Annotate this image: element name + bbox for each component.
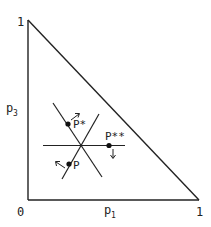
simplex-triangle: [28, 20, 199, 200]
y-max-label: 1: [17, 15, 24, 29]
simplex-diagram: 1 0 1 p 1 p 3 P* P P**: [0, 0, 211, 227]
x-max-label: 1: [196, 205, 203, 219]
x-axis-label: p 1: [104, 203, 116, 220]
point-p-star: P*: [65, 114, 86, 132]
point-dot: [65, 121, 70, 126]
svg-text:1: 1: [111, 211, 116, 220]
hypotenuse: [28, 20, 199, 200]
point-dot: [106, 143, 111, 148]
point-label: P: [73, 159, 80, 172]
point-dot: [66, 161, 71, 166]
point-p-star-star: P**: [105, 130, 125, 159]
point-label: P**: [105, 130, 125, 143]
origin-label: 0: [17, 205, 24, 219]
y-axis-label: p 3: [6, 101, 18, 118]
arrow-up-left-icon: [56, 162, 65, 168]
svg-text:3: 3: [13, 109, 18, 118]
point-label: P*: [73, 118, 86, 131]
